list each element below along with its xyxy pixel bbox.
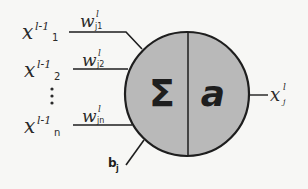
input-ellipsis: [50, 87, 53, 104]
bias-wire: [126, 140, 144, 165]
svg-text:x: x: [22, 20, 33, 44]
neuron-body: [125, 32, 249, 156]
svg-text:j1: j1: [94, 22, 102, 31]
neuron-diagram-svg: Σ a x l-1 1 w l j1 x l-1 2 w l j2: [0, 0, 308, 189]
activation-symbol: a: [201, 73, 225, 114]
summation-symbol: Σ: [149, 71, 175, 115]
svg-text:x: x: [24, 58, 35, 82]
svg-text:2: 2: [54, 71, 60, 82]
input-label-1: x l-1 1: [22, 20, 58, 44]
input-label-2: x l-1 2: [24, 58, 60, 82]
svg-text:l: l: [283, 82, 286, 92]
svg-text:jn: jn: [96, 116, 104, 125]
svg-text:l-1: l-1: [37, 114, 51, 127]
svg-text:w: w: [82, 50, 97, 70]
input-wire-1: [69, 32, 142, 49]
svg-text:j: j: [281, 97, 286, 106]
svg-text:l: l: [98, 48, 101, 58]
svg-text:w: w: [82, 106, 97, 126]
neuron-diagram: Σ a x l-1 1 w l j1 x l-1 2 w l j2: [0, 0, 308, 189]
svg-text:l-1: l-1: [35, 20, 49, 33]
svg-text:x: x: [24, 114, 35, 138]
svg-text:x: x: [270, 84, 280, 105]
svg-text:l-1: l-1: [37, 58, 51, 71]
weight-label-2: w l j2: [82, 48, 104, 70]
weight-label-n: w l jn: [82, 104, 104, 126]
svg-text:l: l: [96, 9, 99, 19]
input-label-n: x l-1 n: [24, 114, 60, 138]
svg-text:n: n: [54, 127, 60, 138]
svg-text:j: j: [115, 164, 119, 173]
svg-text:1: 1: [52, 32, 58, 43]
svg-text:l: l: [98, 104, 101, 114]
bias-label: b j: [108, 156, 119, 173]
svg-text:j2: j2: [96, 60, 104, 69]
svg-text:w: w: [80, 11, 95, 31]
weight-label-1: w l j1: [80, 9, 102, 31]
output-label: x l j: [270, 82, 286, 106]
